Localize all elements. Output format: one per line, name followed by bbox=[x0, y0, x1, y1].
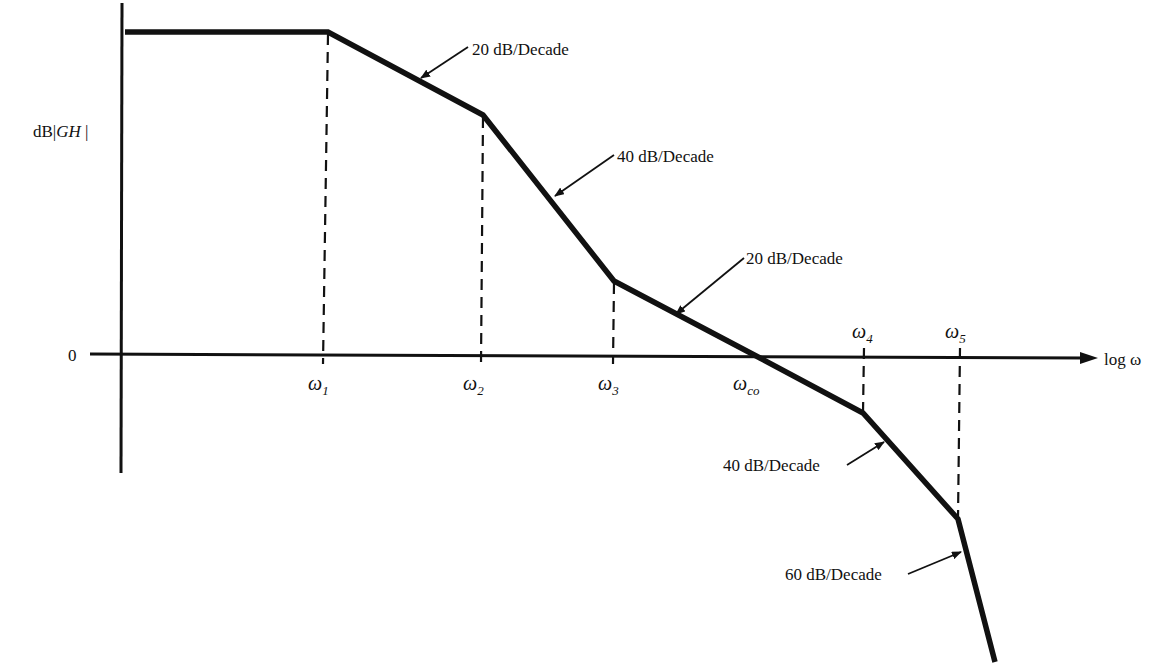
svg-text:20 dB/Decade: 20 dB/Decade bbox=[746, 249, 843, 268]
svg-text:40 dB/Decade: 40 dB/Decade bbox=[617, 147, 714, 166]
annotation-arrow-icon bbox=[676, 258, 744, 314]
breakpoint-guides bbox=[323, 34, 960, 519]
slope-annotation-2: 40 dB/Decade bbox=[555, 147, 714, 196]
x-axis bbox=[90, 354, 1086, 358]
tick-label-w4: ω4 bbox=[852, 320, 873, 346]
tick-label-w3: ω3 bbox=[598, 372, 619, 398]
slope-annotation-4: 40 dB/Decade bbox=[723, 442, 884, 475]
svg-text:60 dB/Decade: 60 dB/Decade bbox=[785, 565, 882, 584]
guide-w4 bbox=[863, 348, 864, 413]
guide-w5 bbox=[958, 348, 960, 519]
annotation-arrow-icon bbox=[908, 552, 961, 574]
slope-annotation-3: 20 dB/Decade bbox=[676, 249, 843, 314]
annotation-arrow-icon bbox=[421, 47, 468, 78]
tick-label-w2: ω2 bbox=[463, 372, 484, 398]
tick-label-wco: ωco bbox=[733, 372, 760, 398]
slope-annotation-1: 20 dB/Decade bbox=[421, 40, 569, 78]
bode-magnitude-plot: dB|GH | 0 log ω ω1 ω2 ω3 ωco ω4 ω5 20 dB… bbox=[0, 0, 1155, 671]
guide-w2 bbox=[481, 117, 483, 364]
y-axis bbox=[121, 3, 122, 473]
x-axis-label: log ω bbox=[1104, 350, 1141, 369]
svg-text:40 dB/Decade: 40 dB/Decade bbox=[723, 456, 820, 475]
annotation-arrow-icon bbox=[555, 155, 614, 196]
guide-w1 bbox=[323, 34, 328, 364]
annotation-arrow-icon bbox=[847, 442, 884, 465]
svg-text:20 dB/Decade: 20 dB/Decade bbox=[472, 40, 569, 59]
y-axis-label: dB|GH | bbox=[33, 122, 88, 141]
tick-label-w1: ω1 bbox=[308, 372, 329, 398]
slope-annotation-5: 60 dB/Decade bbox=[785, 552, 961, 584]
tick-label-w5: ω5 bbox=[945, 320, 966, 346]
x-axis-arrow-icon bbox=[1080, 352, 1098, 364]
y-zero-label: 0 bbox=[68, 346, 77, 365]
guide-w3 bbox=[613, 283, 614, 364]
